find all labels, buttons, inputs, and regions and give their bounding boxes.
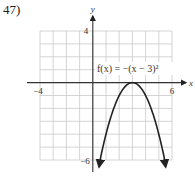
y-tick-label-bottom: −6: [80, 156, 90, 166]
x-axis-label: x: [188, 78, 193, 88]
function-label: f(x) = −(x − 3)²: [97, 63, 159, 75]
x-tick-label-right: 6: [170, 86, 175, 96]
y-axis-label: y: [90, 4, 95, 14]
grid: [40, 31, 172, 160]
x-tick-label-left: −4: [33, 86, 43, 96]
parabola-chart: xy4−6−46f(x) = −(x − 3)²: [0, 0, 195, 176]
y-tick-label-top: 4: [84, 26, 89, 36]
